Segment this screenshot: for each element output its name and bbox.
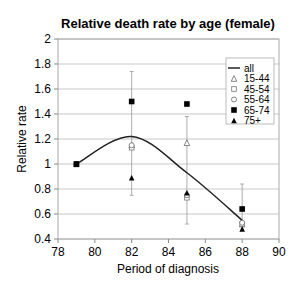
y-tick-label: 0.4 bbox=[34, 232, 51, 246]
x-tick-label: 90 bbox=[272, 245, 286, 259]
y-tick-label: 1 bbox=[44, 157, 51, 171]
x-axis-label: Period of diagnosis bbox=[117, 262, 219, 276]
svg-text:45-54: 45-54 bbox=[244, 84, 270, 95]
x-tick-label: 84 bbox=[162, 245, 176, 259]
y-tick-label: 0.6 bbox=[34, 207, 51, 221]
legend: all15-4445-5455-6465-7475+ bbox=[226, 58, 274, 126]
x-tick-label: 88 bbox=[235, 245, 249, 259]
x-tick-label: 82 bbox=[125, 245, 139, 259]
y-axis-label: Relative rate bbox=[15, 105, 29, 173]
y-axis-ticks: 0.40.60.811.21.41.61.82 bbox=[34, 32, 58, 246]
y-tick-label: 1.6 bbox=[34, 82, 51, 96]
y-tick-label: 2 bbox=[44, 32, 51, 46]
x-tick-label: 86 bbox=[199, 245, 213, 259]
y-tick-label: 1.8 bbox=[34, 57, 51, 71]
series-55-64 bbox=[74, 143, 245, 226]
chart-title: Relative death rate by age (female) bbox=[61, 16, 275, 31]
y-tick-label: 1.2 bbox=[34, 132, 51, 146]
chart: Relative death rate by age (female) 0.40… bbox=[0, 0, 300, 294]
x-tick-label: 80 bbox=[88, 245, 102, 259]
x-tick-label: 78 bbox=[51, 245, 65, 259]
svg-text:all: all bbox=[244, 63, 254, 74]
svg-text:55-64: 55-64 bbox=[244, 94, 270, 105]
all-trend-line bbox=[76, 136, 242, 220]
data-points bbox=[74, 99, 245, 232]
svg-text:65-74: 65-74 bbox=[244, 105, 270, 116]
svg-text:75+: 75+ bbox=[244, 115, 261, 126]
series-75+ bbox=[74, 161, 245, 232]
svg-text:15-44: 15-44 bbox=[244, 73, 270, 84]
series-65-74 bbox=[74, 99, 245, 212]
x-axis-ticks: 78808284868890 bbox=[51, 239, 286, 259]
y-tick-label: 0.8 bbox=[34, 182, 51, 196]
y-tick-label: 1.4 bbox=[34, 107, 51, 121]
